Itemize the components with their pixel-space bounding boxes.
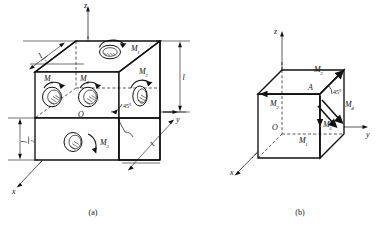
panel-b-angle-label: 45° <box>333 89 342 95</box>
panel-b-caption: (b) <box>295 208 305 217</box>
panel-b-label-origin: O <box>272 123 278 132</box>
panel-b-point-a: A <box>307 83 313 92</box>
panel-a-label-origin: O <box>78 110 84 119</box>
panel-a-dim-bottom-left-fraction: l 2 <box>20 137 35 145</box>
panel-b-moment-label-m4: M 4 <box>344 100 354 111</box>
b-m1-sub: 1 <box>305 142 308 147</box>
dim-2-den-a2: 2 <box>30 140 35 143</box>
dim-l-num-a2: l <box>20 140 29 143</box>
panel-b: 45° A M 3 M 2 M 4 M 5 M 1 z y x O (b) <box>229 27 370 217</box>
dim-l-right-a: l <box>183 73 186 82</box>
panel-a: 45° l 2 l <box>8 1 190 217</box>
figure-svg: 45° l 2 l <box>0 0 384 226</box>
panel-a-dim-right-height <box>156 41 190 112</box>
m1-sub: 1 <box>137 50 140 55</box>
panel-a-label-y: y <box>175 115 180 124</box>
b-m4-sub: 4 <box>351 106 354 111</box>
panel-b-label-x: x <box>229 168 234 177</box>
panel-b-label-y: y <box>365 130 370 139</box>
panel-a-dim-bottom-left <box>8 118 38 160</box>
panel-b-label-z: z <box>273 27 278 36</box>
panel-a-angle-label: 45° <box>123 103 132 109</box>
panel-a-caption: (a) <box>89 208 98 217</box>
panel-a-label-x: x <box>11 187 16 196</box>
figure-root: 45° l 2 l <box>0 0 384 226</box>
